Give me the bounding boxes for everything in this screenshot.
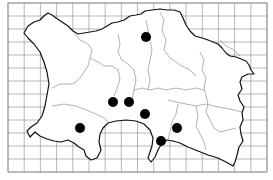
record-dot — [156, 136, 166, 146]
coastline — [24, 9, 254, 166]
record-dot — [141, 32, 151, 42]
record-dot — [172, 123, 182, 133]
record-dot — [108, 97, 118, 107]
record-dot — [75, 123, 85, 133]
record-dot — [140, 109, 150, 119]
distribution-map — [0, 0, 273, 180]
record-dot — [124, 97, 134, 107]
